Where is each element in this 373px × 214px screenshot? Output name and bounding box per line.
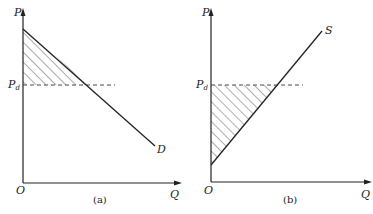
demand-curve [23, 29, 155, 146]
x-axis-label: Q [361, 188, 370, 201]
origin-label: O [204, 184, 213, 197]
y-axis-label: P [201, 6, 210, 19]
panel-caption: (b) [283, 194, 297, 205]
panel-b: P Pd S O Q (b) [186, 0, 373, 214]
origin-label: O [16, 184, 25, 197]
curve-label-s: S [325, 24, 333, 37]
x-axis-arrow-icon [364, 180, 372, 185]
curve-label-d: D [156, 143, 166, 156]
panel-caption: (a) [93, 194, 107, 205]
y-axis-label: P [13, 6, 22, 19]
x-axis-label: Q [170, 188, 179, 201]
consumer-surplus-hatch [0, 0, 186, 214]
price-label: Pd [195, 78, 208, 92]
price-label: Pd [7, 78, 20, 92]
surplus-diagram: P Pd D O Q (a) P Pd S O Q (b) [0, 0, 373, 214]
x-axis-arrow-icon [174, 181, 182, 186]
panel-a: P Pd D O Q (a) [0, 0, 186, 214]
